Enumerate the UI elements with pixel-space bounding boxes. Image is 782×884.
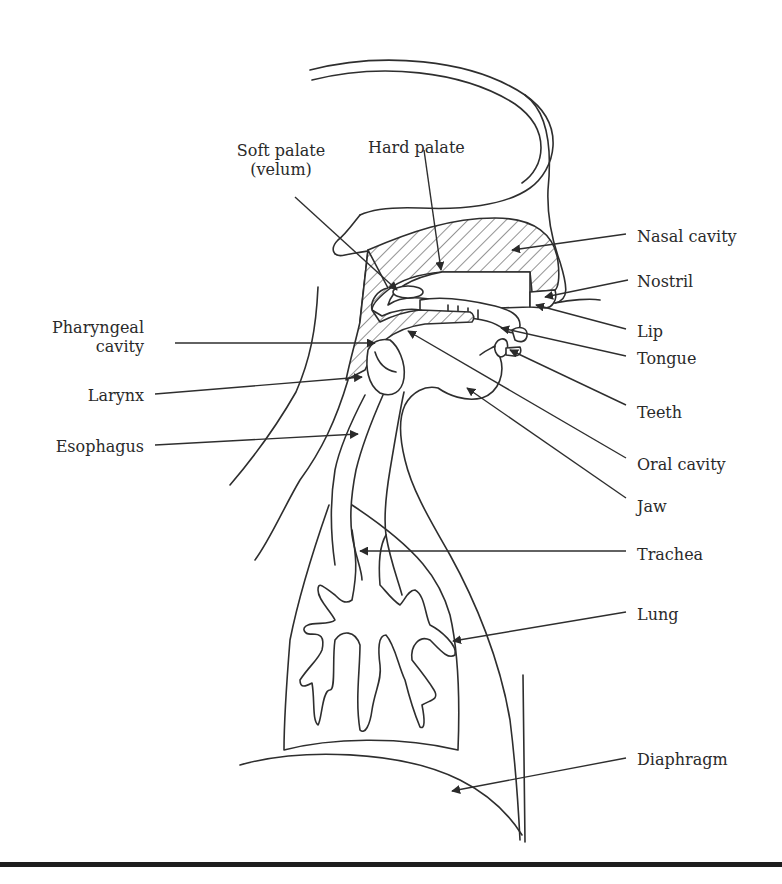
label-larynx: Larynx [82,386,144,405]
label-lung: Lung [637,605,678,624]
trachea-esophagus [351,392,404,595]
label-esophagus: Esophagus [48,437,144,456]
bottom-rule [0,862,782,867]
velum-shape [393,286,423,298]
label-teeth: Teeth [637,403,682,422]
label-tongue: Tongue [637,349,696,368]
diagram-canvas: Soft palate (velum) Hard palate Nasal ca… [0,0,782,884]
label-oral-cavity: Oral cavity [637,455,726,474]
lip-leader [536,305,626,329]
neck-outlines [230,287,365,565]
label-nasal-cavity: Nasal cavity [637,227,737,246]
larynx-leader [155,377,362,394]
esophagus-leader [155,434,358,445]
diaphragm-curve [240,754,522,835]
label-jaw: Jaw [637,497,667,516]
label-nostril: Nostril [637,272,693,291]
bronchial-tree [300,530,455,731]
body-back-line [523,675,525,842]
label-soft-palate: Soft palate (velum) [222,141,340,179]
upper-lip [530,290,556,308]
jaw-leader [467,388,626,498]
label-lip: Lip [637,322,663,341]
diaphragm-leader [452,758,626,791]
jaw-outline [400,357,520,840]
label-diaphragm: Diaphragm [637,750,728,769]
label-trachea: Trachea [637,545,703,564]
label-pharyngeal-cavity: Pharyngeal cavity [44,318,144,356]
label-hard-palate: Hard palate [368,138,465,157]
lower-lip [512,328,527,342]
teeth-leader [510,350,626,405]
